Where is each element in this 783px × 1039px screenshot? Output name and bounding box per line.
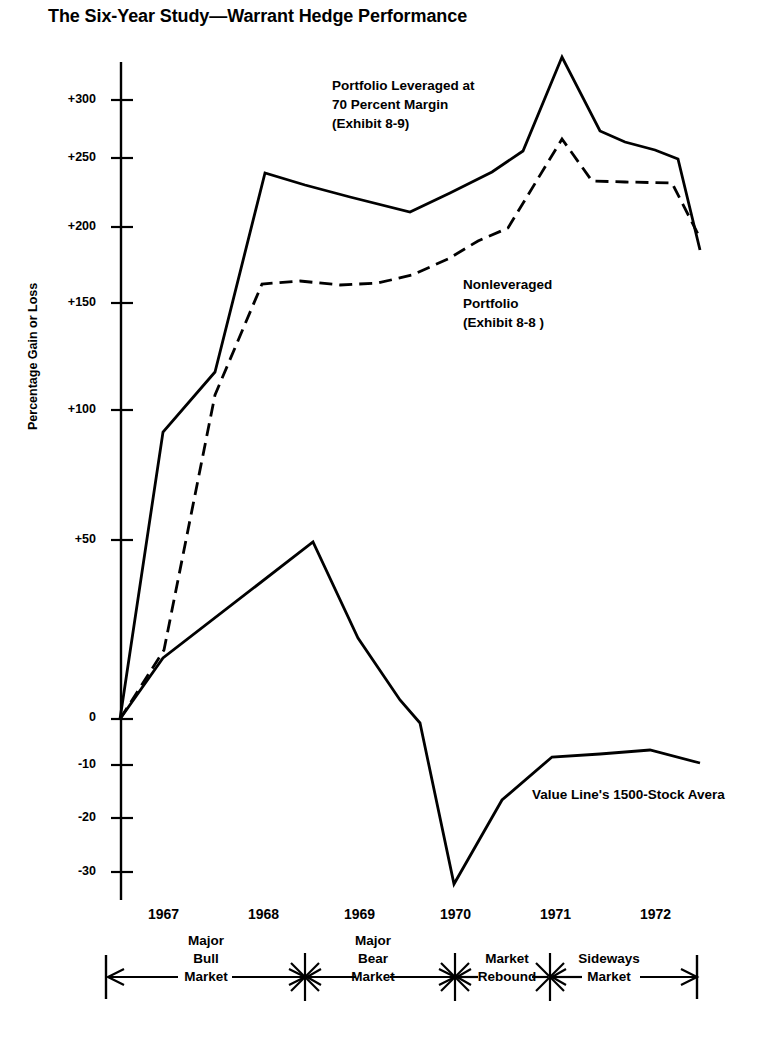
annotation-nonleveraged-portfolio: Nonleveraged Portfolio (Exhibit 8-8 ) — [463, 275, 552, 332]
x-tick-label-1972: 1972 — [640, 906, 671, 922]
y-axis-caption: Percentage Gain or Loss — [26, 230, 40, 430]
x-tick-label-1971: 1971 — [540, 906, 571, 922]
y-tick-label-50: +50 — [24, 532, 96, 546]
x-tick-label-1969: 1969 — [344, 906, 375, 922]
phase-3-line1: Market — [474, 950, 540, 968]
annotation-nonleveraged-line3: (Exhibit 8-8 ) — [463, 313, 552, 332]
chart-canvas — [0, 0, 783, 1039]
phase-label-sideways-market: Sideways Market — [572, 950, 646, 986]
series-value-line-average — [120, 542, 700, 884]
phase-label-major-bull-market: Major Bull Market — [178, 932, 234, 986]
x-tick-label-1970: 1970 — [440, 906, 471, 922]
phase-2-line2: Bear — [345, 950, 401, 968]
y-tick-label-neg30: -30 — [24, 864, 96, 878]
annotation-leveraged-line3: (Exhibit 8-9) — [332, 114, 475, 133]
phase-label-market-rebound: Market Rebound — [474, 950, 540, 986]
phase-1-line2: Bull — [178, 950, 234, 968]
x-tick-label-1968: 1968 — [248, 906, 279, 922]
annotation-nonleveraged-line1: Nonleveraged — [463, 275, 552, 294]
phase-4-line1: Sideways — [572, 950, 646, 968]
phase-label-major-bear-market: Major Bear Market — [345, 932, 401, 986]
phase-4-line2: Market — [572, 968, 646, 986]
y-tick-label-0: 0 — [24, 710, 96, 724]
y-tick-label-neg20: -20 — [24, 810, 96, 824]
phase-2-line1: Major — [345, 932, 401, 950]
annotation-value-line-average: Value Line's 1500-Stock Avera — [532, 787, 725, 802]
phase-1-line1: Major — [178, 932, 234, 950]
annotation-leveraged-portfolio: Portfolio Leveraged at 70 Percent Margin… — [332, 76, 475, 133]
phase-1-line3: Market — [178, 968, 234, 986]
phase-2-line3: Market — [345, 968, 401, 986]
annotation-leveraged-line2: 70 Percent Margin — [332, 95, 475, 114]
y-tick-label-neg10: -10 — [24, 757, 96, 771]
phase-3-line2: Rebound — [474, 968, 540, 986]
series-nonleveraged-portfolio — [120, 139, 700, 719]
x-tick-label-1967: 1967 — [148, 906, 179, 922]
y-tick-label-300: +300 — [24, 92, 96, 106]
series-leveraged-portfolio — [120, 57, 700, 719]
annotation-nonleveraged-line2: Portfolio — [463, 294, 552, 313]
y-tick-label-250: +250 — [24, 150, 96, 164]
chart-figure: The Six-Year Study—Warrant Hedge Perform… — [0, 0, 783, 1039]
annotation-leveraged-line1: Portfolio Leveraged at — [332, 76, 475, 95]
